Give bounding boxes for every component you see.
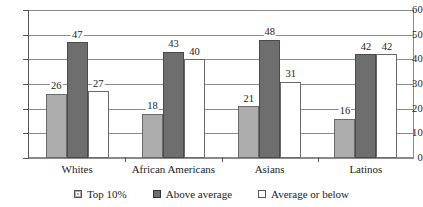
bar-rect[interactable]: [142, 114, 163, 158]
bar-value-label: 27: [92, 79, 105, 90]
x-axis-tick-mark: [125, 157, 126, 162]
legend-item-label: Average or below: [271, 189, 349, 200]
bar-groups: 264727184340214831164242: [29, 10, 414, 158]
bar[interactable]: 31: [280, 10, 301, 158]
bar-value-label: 42: [381, 42, 394, 53]
bar-rect[interactable]: [67, 42, 88, 158]
bar-rect[interactable]: [334, 119, 355, 158]
legend-swatch-average-or-below-icon: [258, 190, 266, 198]
bar-group-african-americans: 184340: [125, 10, 221, 158]
bar[interactable]: 16: [334, 10, 355, 158]
bar-rect[interactable]: [280, 82, 301, 158]
bar-value-label: 21: [242, 94, 255, 105]
legend-item[interactable]: Above average: [153, 189, 232, 200]
bar-value-label: 31: [284, 69, 297, 80]
bar-group-whites: 264727: [29, 10, 125, 158]
bar-group-latinos: 164242: [318, 10, 414, 158]
x-axis-label-whites: Whites: [29, 164, 125, 175]
y-tick-mark-0: [23, 158, 29, 159]
bar-value-label: 47: [71, 30, 84, 41]
bar[interactable]: 21: [238, 10, 259, 158]
bar-rect[interactable]: [46, 94, 67, 158]
bar-rect[interactable]: [163, 52, 184, 158]
bar-value-label: 48: [263, 27, 276, 38]
legend-item-label: Above average: [166, 189, 232, 200]
bar[interactable]: 47: [67, 10, 88, 158]
bar-value-label: 16: [339, 106, 352, 117]
x-axis-label-african-americans: African Americans: [125, 164, 221, 175]
bar[interactable]: 27: [88, 10, 109, 158]
bar[interactable]: 26: [46, 10, 67, 158]
bar-value-label: 42: [360, 42, 373, 53]
x-axis-tick-mark: [318, 157, 319, 162]
bar-chart: 6050403020100 264727184340214831164242 W…: [0, 0, 423, 207]
x-axis-label-latinos: Latinos: [318, 164, 414, 175]
bar[interactable]: 42: [355, 10, 376, 158]
bar-rect[interactable]: [184, 59, 205, 158]
bar[interactable]: 48: [259, 10, 280, 158]
legend-swatch-above-average-icon: [153, 190, 161, 198]
bar-rect[interactable]: [355, 54, 376, 158]
legend-swatch-top-10-icon: [74, 190, 82, 198]
bar[interactable]: 18: [142, 10, 163, 158]
x-axis-label-asians: Asians: [222, 164, 318, 175]
legend-item[interactable]: Top 10%: [74, 189, 127, 200]
legend-item-label: Top 10%: [87, 189, 127, 200]
bar-value-label: 40: [188, 47, 201, 58]
bar-rect[interactable]: [88, 91, 109, 158]
bar-value-label: 43: [167, 39, 180, 50]
bar[interactable]: 42: [376, 10, 397, 158]
x-axis-category-labels: WhitesAfrican AmericansAsiansLatinos: [29, 164, 414, 180]
x-axis-tick-mark: [222, 157, 223, 162]
chart-legend: Top 10%Above averageAverage or below: [0, 186, 423, 202]
bar-group-asians: 214831: [222, 10, 318, 158]
bar-value-label: 18: [146, 101, 159, 112]
bar-rect[interactable]: [376, 54, 397, 158]
bar-rect[interactable]: [259, 40, 280, 158]
bar-rect[interactable]: [238, 106, 259, 158]
bar[interactable]: 43: [163, 10, 184, 158]
legend-item[interactable]: Average or below: [258, 189, 349, 200]
bar-value-label: 26: [50, 81, 63, 92]
bar[interactable]: 40: [184, 10, 205, 158]
